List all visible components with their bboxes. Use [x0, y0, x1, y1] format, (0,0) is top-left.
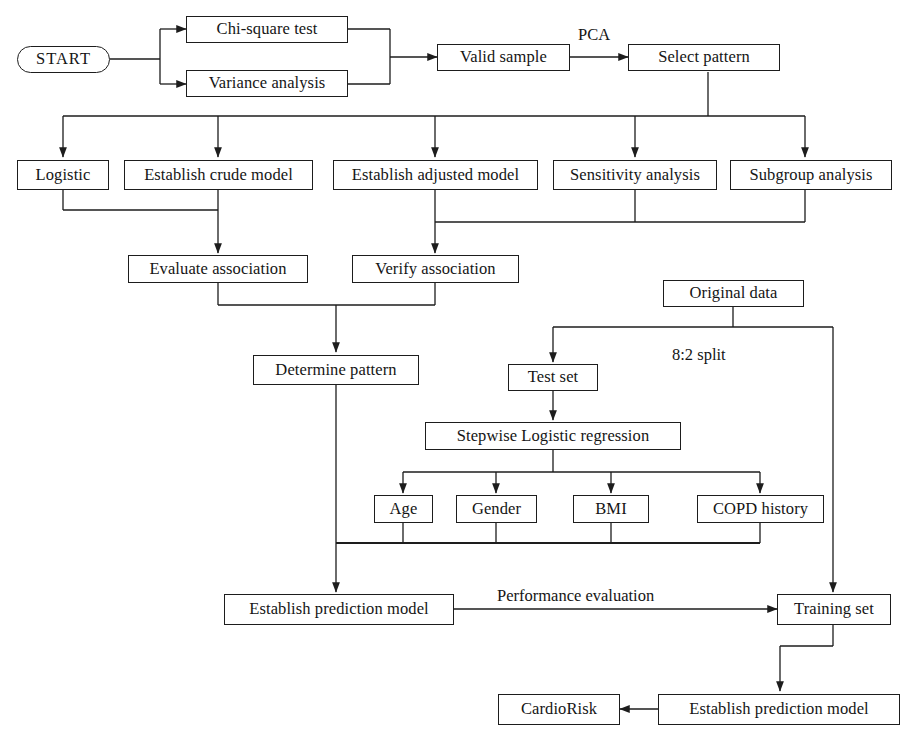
node-gender-label: Gender	[472, 501, 521, 518]
node-test-set[interactable]: Test set	[508, 364, 598, 391]
node-determine-pattern-label: Determine pattern	[275, 362, 396, 379]
node-copd-history[interactable]: COPD history	[697, 495, 824, 523]
node-training-set-label: Training set	[794, 601, 874, 618]
node-original-data-label: Original data	[690, 285, 778, 302]
node-determine-pattern[interactable]: Determine pattern	[253, 355, 419, 385]
node-establish-prediction-model-left[interactable]: Establish prediction model	[224, 594, 454, 625]
node-establish-prediction-model-bottom-label: Establish prediction model	[689, 701, 868, 718]
node-training-set[interactable]: Training set	[777, 594, 891, 625]
node-copd-history-label: COPD history	[713, 501, 808, 518]
edge-label-performance-evaluation: Performance evaluation	[497, 588, 654, 605]
node-stepwise-logistic-regression-label: Stepwise Logistic regression	[457, 428, 650, 445]
node-establish-adjusted-model-label: Establish adjusted model	[352, 167, 519, 184]
node-bmi[interactable]: BMI	[573, 495, 649, 523]
node-chi-square-test-label: Chi-square test	[217, 21, 318, 38]
node-start-label: START	[36, 51, 91, 68]
node-valid-sample-label: Valid sample	[460, 49, 547, 66]
node-age-label: Age	[390, 501, 418, 518]
node-cardiorisk[interactable]: CardioRisk	[498, 694, 620, 725]
node-original-data[interactable]: Original data	[663, 280, 804, 307]
node-logistic-label: Logistic	[36, 167, 91, 184]
node-establish-prediction-model-bottom[interactable]: Establish prediction model	[658, 694, 900, 725]
node-sensitivity-analysis[interactable]: Sensitivity analysis	[553, 160, 717, 190]
node-valid-sample[interactable]: Valid sample	[437, 44, 570, 71]
node-sensitivity-analysis-label: Sensitivity analysis	[570, 167, 700, 184]
node-select-pattern-label: Select pattern	[658, 49, 750, 66]
node-subgroup-analysis-label: Subgroup analysis	[749, 167, 872, 184]
edge-label-split-ratio: 8:2 split	[672, 347, 726, 364]
connector-layer	[0, 0, 914, 745]
node-chi-square-test[interactable]: Chi-square test	[186, 16, 348, 43]
node-evaluate-association[interactable]: Evaluate association	[128, 255, 308, 283]
node-subgroup-analysis[interactable]: Subgroup analysis	[730, 160, 892, 190]
node-evaluate-association-label: Evaluate association	[149, 261, 286, 278]
node-start[interactable]: START	[17, 46, 110, 73]
edge-label-pca: PCA	[578, 27, 610, 44]
node-cardiorisk-label: CardioRisk	[521, 701, 597, 718]
node-verify-association-label: Verify association	[375, 261, 495, 278]
node-establish-crude-model[interactable]: Establish crude model	[124, 160, 313, 190]
node-test-set-label: Test set	[528, 369, 579, 386]
flowchart-canvas: START Chi-square test Variance analysis …	[0, 0, 914, 745]
node-establish-crude-model-label: Establish crude model	[144, 167, 293, 184]
node-verify-association[interactable]: Verify association	[352, 255, 519, 283]
edge-label-pca-text: PCA	[578, 25, 610, 44]
node-establish-prediction-model-left-label: Establish prediction model	[249, 601, 428, 618]
node-establish-adjusted-model[interactable]: Establish adjusted model	[333, 160, 538, 190]
node-age[interactable]: Age	[374, 495, 433, 523]
node-logistic[interactable]: Logistic	[17, 160, 109, 190]
node-stepwise-logistic-regression[interactable]: Stepwise Logistic regression	[425, 422, 681, 450]
node-gender[interactable]: Gender	[456, 495, 537, 523]
node-variance-analysis[interactable]: Variance analysis	[186, 70, 348, 97]
node-variance-analysis-label: Variance analysis	[209, 75, 326, 92]
node-bmi-label: BMI	[595, 501, 626, 518]
edge-label-performance-evaluation-text: Performance evaluation	[497, 586, 654, 605]
node-select-pattern[interactable]: Select pattern	[628, 44, 780, 71]
edge-label-split-ratio-text: 8:2 split	[672, 345, 726, 364]
